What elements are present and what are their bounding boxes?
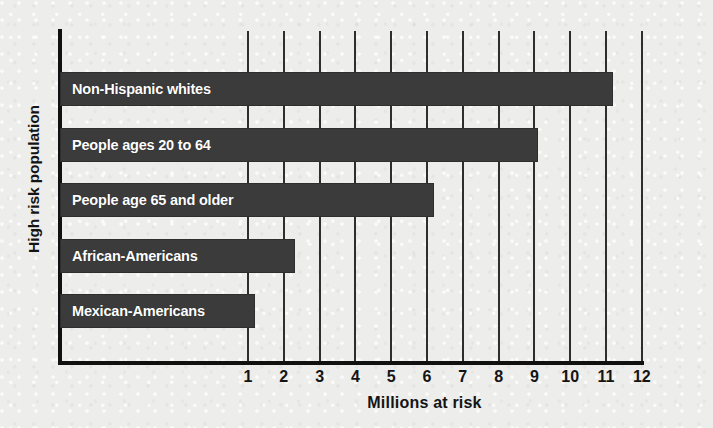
x-tick-label-5: 5 bbox=[371, 368, 411, 386]
x-tick-label-4: 4 bbox=[335, 368, 375, 386]
bar-0: Non-Hispanic whites bbox=[60, 72, 613, 106]
bar-label-1: People ages 20 to 64 bbox=[72, 137, 211, 153]
x-tick-label-8: 8 bbox=[479, 368, 519, 386]
x-tick-label-1: 1 bbox=[228, 368, 268, 386]
bar-label-0: Non-Hispanic whites bbox=[72, 81, 211, 97]
bar-1: People ages 20 to 64 bbox=[60, 128, 538, 162]
x-axis-line bbox=[58, 361, 644, 365]
bar-chart-figure: Non-Hispanic whitesPeople ages 20 to 64P… bbox=[0, 0, 713, 428]
x-tick-label-11: 11 bbox=[586, 368, 626, 386]
x-tick-label-6: 6 bbox=[407, 368, 447, 386]
x-tick-label-2: 2 bbox=[264, 368, 304, 386]
bar-label-3: African-Americans bbox=[72, 248, 198, 264]
x-axis-title-text: Millions at risk bbox=[367, 394, 481, 411]
bar-label-4: Mexican-Americans bbox=[72, 303, 205, 319]
x-axis-title: Millions at risk bbox=[0, 394, 713, 412]
bar-label-2: People age 65 and older bbox=[72, 192, 233, 208]
plot-area: Non-Hispanic whitesPeople ages 20 to 64P… bbox=[0, 0, 713, 428]
x-tick-label-7: 7 bbox=[443, 368, 483, 386]
x-tick-label-10: 10 bbox=[550, 368, 590, 386]
x-tick-label-12: 12 bbox=[622, 368, 662, 386]
y-axis-title: High risk population bbox=[25, 29, 43, 329]
bar-3: African-Americans bbox=[60, 239, 295, 273]
gridline-12 bbox=[641, 31, 643, 363]
bar-2: People age 65 and older bbox=[60, 183, 434, 217]
x-tick-label-3: 3 bbox=[300, 368, 340, 386]
bar-4: Mexican-Americans bbox=[60, 294, 255, 328]
x-tick-label-9: 9 bbox=[514, 368, 554, 386]
